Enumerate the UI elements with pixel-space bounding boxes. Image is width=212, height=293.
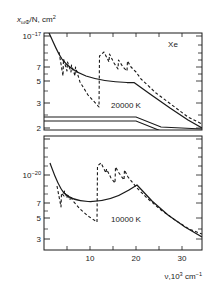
lower-right-ticks [196, 139, 202, 239]
xtick-label-10: 10 [86, 254, 95, 263]
xtick-label-20: 20 [132, 254, 141, 263]
xe-photoabsorption-chart: xωΦ/N, cm2 [0, 0, 212, 293]
upper-ytick-label-0: 10−17 [23, 31, 41, 41]
upper-ytick-label-4: 2 [37, 124, 42, 133]
lower-bottom-ticks [67, 246, 182, 250]
figure-container: xωΦ/N, cm2 [0, 0, 212, 293]
lower-ytick-label-3: 3 [37, 235, 42, 244]
upper-ytick-label-3: 3 [37, 99, 42, 108]
upper-dashed-detail-curve [59, 52, 202, 124]
y-axis-label-main: /N, cm [30, 15, 53, 24]
upper-ytick-label-2: 5 [37, 77, 42, 86]
xtick-label-30: 30 [178, 254, 187, 263]
lower-ytick-label-1: 7 [37, 199, 42, 208]
x-axis-unit-exp: −1 [196, 271, 202, 277]
y-axis-label: xωΦ/N, cm2 [16, 14, 56, 25]
y-axis-var-sub: ωΦ [21, 19, 30, 25]
upper-solid-mean-curve [49, 33, 202, 128]
upper-panel: 10−17 7 5 3 2 Xe 20000 K [23, 31, 202, 133]
y-axis-label-exp: 2 [53, 14, 56, 20]
lower-panel-curves [50, 163, 202, 237]
lower-left-minor-ticks [44, 148, 48, 229]
upper-left-minor-ticks [44, 45, 48, 115]
upper-mean-continuation-a [44, 117, 202, 129]
upper-top-ticks [67, 33, 182, 37]
species-label: Xe [168, 40, 178, 49]
upper-mean-continuation-b [44, 121, 202, 133]
x-axis-var: ν,10 [164, 272, 180, 281]
lower-ytick-label-0: 10−20 [23, 170, 41, 180]
lower-panel: 10−20 7 5 3 10000 K [23, 136, 202, 250]
upper-temperature-label: 20000 K [111, 101, 141, 110]
x-axis-unit: cm [183, 272, 196, 281]
upper-panel-curves [44, 33, 202, 133]
lower-temperature-label: 10000 K [111, 215, 141, 224]
upper-right-ticks [196, 36, 202, 128]
x-axis-label: ν,103 cm−1 [164, 271, 202, 281]
upper-ytick-label-1: 7 [37, 63, 42, 72]
upper-panel-frame [44, 33, 202, 130]
lower-ytick-label-2: 5 [37, 214, 42, 223]
lower-left-major-ticks [44, 139, 50, 239]
upper-left-major-ticks [44, 36, 50, 128]
